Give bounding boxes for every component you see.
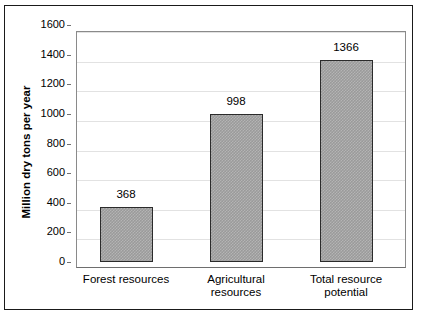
y-axis-tick-label: 400 (5, 197, 65, 208)
y-axis-tick-label: 0 (5, 256, 65, 267)
y-axis-tick-mark (67, 25, 71, 26)
bar[interactable] (210, 114, 263, 262)
y-axis-tick-label: 800 (5, 138, 65, 149)
y-axis-tick-mark (67, 203, 71, 204)
y-axis-tick-label: 1000 (5, 108, 65, 119)
y-axis-tick-label: 1200 (5, 78, 65, 89)
gridline (77, 32, 405, 33)
bar-value-label: 368 (81, 189, 171, 201)
y-axis-tick-label: 600 (5, 167, 65, 178)
bar[interactable] (100, 207, 153, 262)
x-axis-category-label: Total resource potential (286, 273, 406, 299)
y-axis-tick-mark (67, 173, 71, 174)
bar[interactable] (320, 60, 373, 262)
x-axis-category-label: Agricultural resources (176, 273, 296, 299)
x-axis-category-label: Forest resources (66, 273, 186, 286)
y-axis-tick-mark (67, 144, 71, 145)
y-axis-tick-mark (67, 55, 71, 56)
y-axis-tick-mark (67, 114, 71, 115)
bar-value-label: 998 (191, 96, 281, 108)
y-axis-tick-label: 1400 (5, 49, 65, 60)
bar-value-label: 1366 (301, 42, 391, 54)
y-axis-tick-label: 1600 (5, 19, 65, 30)
bar-chart-figure: Million dry tons per year 02004006008001… (0, 0, 424, 321)
y-axis-tick-mark (67, 84, 71, 85)
y-axis-tick-label: 200 (5, 226, 65, 237)
y-axis-tick-mark (67, 262, 71, 263)
y-axis-tick-mark (67, 232, 71, 233)
